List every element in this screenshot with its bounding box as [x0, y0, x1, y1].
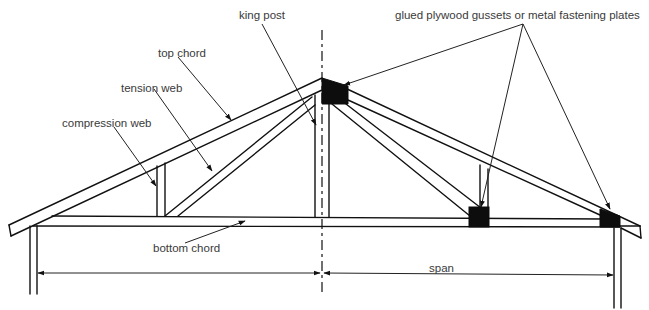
label-king-post: king post: [239, 9, 286, 21]
label-bottom-chord: bottom chord: [153, 242, 220, 254]
label-compression-web: compression web: [62, 117, 151, 129]
truss-diagram: king post top chord tension web compress…: [0, 0, 649, 310]
span-dimension: [38, 273, 613, 275]
right-compression-web: [480, 165, 488, 207]
leader-top-chord: [178, 57, 231, 120]
leader-king-post: [262, 24, 316, 125]
left-compression-web: [157, 163, 165, 216]
right-tension-web: [332, 104, 481, 216]
king-post: [315, 30, 329, 295]
left-tension-web: [165, 97, 315, 216]
bottom-chord: [33, 216, 620, 227]
label-top-chord: top chord: [158, 47, 206, 59]
leader-tension-web: [154, 89, 212, 171]
label-span: span: [429, 262, 454, 274]
gusset-apex: [322, 78, 348, 104]
right-top-chord: [345, 88, 641, 238]
gusset-right-web: [469, 207, 489, 227]
left-wall: [30, 226, 37, 294]
label-tension-web: tension web: [121, 82, 182, 94]
right-wall: [614, 228, 621, 308]
label-gussets: glued plywood gussets or metal fastening…: [395, 9, 640, 21]
leader-bottom-chord: [185, 221, 245, 243]
